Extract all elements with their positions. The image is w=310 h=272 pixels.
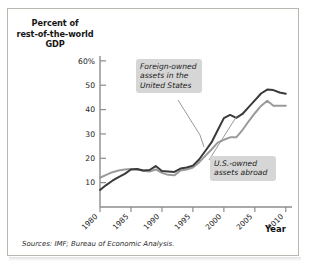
x-tick-label: 1990: [142, 212, 162, 232]
y-tick-label: 10: [85, 178, 95, 187]
leader-line-foreign: [178, 100, 204, 147]
sources-note: Sources: IMF; Bureau of Economic Analysi…: [22, 240, 174, 248]
y-tick-label: 40: [85, 105, 95, 114]
x-axis-label: Year: [265, 224, 286, 234]
x-tick-label: 1995: [173, 212, 193, 232]
x-tick-label: 2000: [204, 212, 224, 232]
line-chart: 60%5040302010 19801985199019952000200520…: [0, 0, 310, 272]
x-tick-label: 2005: [235, 212, 255, 232]
x-tick-label: 1980: [80, 212, 100, 232]
y-tick-label: 20: [85, 154, 95, 163]
figure-container: Percent of rest-of-the-world GDP 60%5040…: [0, 0, 310, 272]
y-tick-label: 30: [85, 130, 95, 139]
x-tick-label: 1985: [111, 212, 131, 232]
figure-shadow: [9, 257, 301, 261]
annotation-us-owned: U.S.-owned assets abroad: [210, 156, 276, 181]
annotation-leader-lines: [178, 100, 237, 160]
x-axis-ticks: 1980198519901995200020052010: [80, 207, 286, 232]
y-tick-label: 50: [85, 81, 95, 90]
annotation-foreign-owned: Foreign-owned assets in the United State…: [136, 59, 202, 93]
y-axis-ticks: 60%5040302010: [78, 57, 106, 188]
y-tick-label: 60%: [78, 57, 95, 66]
